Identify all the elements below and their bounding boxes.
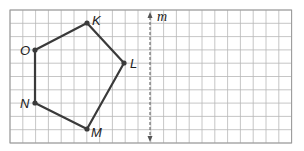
vertex-point-o — [32, 47, 37, 52]
line-label-m: m — [157, 9, 167, 24]
reflection-diagram: m KLMNO — [0, 0, 304, 151]
vertex-point-m — [84, 126, 89, 131]
vertex-label-n: N — [20, 96, 30, 111]
vertex-label-l: L — [130, 56, 137, 71]
vertex-label-o: O — [20, 43, 30, 58]
vertex-point-l — [121, 60, 126, 65]
vertex-point-n — [32, 100, 37, 105]
vertex-label-m: M — [91, 125, 102, 140]
vertex-point-k — [84, 20, 89, 25]
vertex-label-k: K — [92, 13, 102, 28]
